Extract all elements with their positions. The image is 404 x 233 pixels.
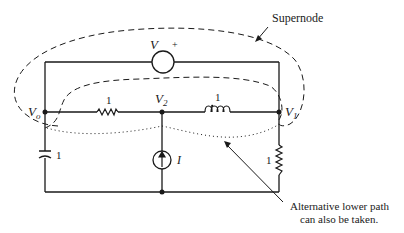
voltage-source-polarity: +: [172, 39, 178, 50]
node-v0-dot: [43, 110, 48, 115]
capacitor-value: 1: [56, 149, 62, 161]
node-v0-label: Vo: [28, 104, 41, 121]
bottom-node-dot: [160, 190, 165, 195]
supernode-label: Supernode: [272, 11, 323, 25]
inductor: 1: [205, 91, 230, 112]
current-source: I: [153, 151, 182, 169]
resistor-right: 1: [266, 145, 282, 175]
supernode-boundary: [14, 28, 304, 128]
voltage-source-label: V: [150, 37, 160, 52]
node-v2-label: V2: [155, 91, 168, 108]
inductor-value: 1: [215, 91, 221, 103]
arrowhead-icon: [224, 141, 231, 148]
resistor-middle: 1: [97, 94, 118, 115]
circuit-diagram: V + 1 1 I 1 1 Vo V2 V1: [0, 0, 404, 233]
voltage-source: V +: [150, 37, 178, 73]
resistor-middle-value: 1: [106, 94, 112, 106]
node-v1-dot: [277, 110, 282, 115]
node-v2-dot: [160, 110, 165, 115]
resistor-right-value: 1: [266, 154, 272, 166]
alternate-path-note-line2: can also be taken.: [300, 213, 378, 225]
alternate-path-note-line1: Alternative lower path: [290, 200, 389, 212]
alternate-path-pointer: [224, 141, 283, 202]
alternate-path: [47, 124, 279, 137]
current-source-label: I: [176, 153, 182, 167]
capacitor: 1: [39, 149, 62, 161]
